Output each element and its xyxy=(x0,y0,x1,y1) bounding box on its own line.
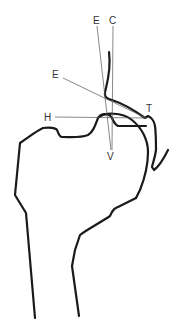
label-E-left: E xyxy=(52,69,59,80)
hip-joint-diagram: E C E H T V xyxy=(0,0,185,329)
line-edge-E-left xyxy=(63,78,146,118)
line-edge-E-top xyxy=(97,26,111,150)
label-C-top: C xyxy=(109,15,116,26)
line-vertical-C xyxy=(112,26,113,150)
label-E-top: E xyxy=(93,15,100,26)
femur-medial-outline xyxy=(72,198,136,316)
label-T: T xyxy=(146,103,152,114)
label-H: H xyxy=(44,112,51,123)
femur-lateral-outline xyxy=(15,114,146,318)
acetabulum-outline xyxy=(105,52,168,170)
line-horizontal-H xyxy=(55,117,146,118)
label-V: V xyxy=(107,151,114,162)
